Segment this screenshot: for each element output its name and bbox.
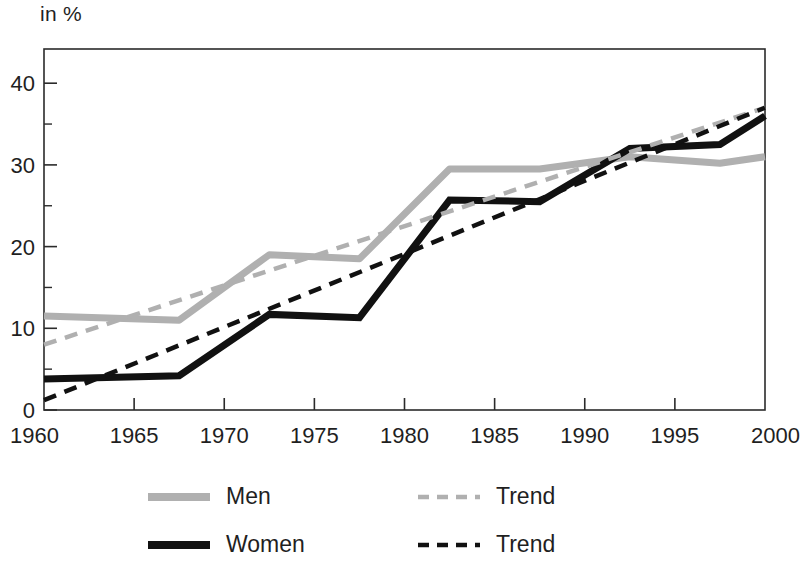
legend-label-men-0: Men bbox=[226, 483, 271, 509]
x-tick-label-2000: 2000 bbox=[751, 423, 800, 448]
y-tick-label-20: 20 bbox=[11, 235, 35, 260]
x-axis-tick-labels: 196019651970197519801985199019952000 bbox=[10, 423, 800, 448]
x-tick-label-1960: 1960 bbox=[10, 423, 59, 448]
legend-label-trend-3: Trend bbox=[496, 531, 555, 557]
chart-container: in % 010203040 1960196519701975198019851… bbox=[0, 0, 800, 569]
x-tick-label-1975: 1975 bbox=[290, 423, 339, 448]
y-tick-label-0: 0 bbox=[23, 398, 35, 423]
x-tick-label-1970: 1970 bbox=[200, 423, 249, 448]
x-tick-label-1965: 1965 bbox=[110, 423, 159, 448]
legend-label-women-2: Women bbox=[226, 531, 305, 557]
x-axis-ticks bbox=[134, 398, 675, 410]
series-line-trend-dashed bbox=[44, 108, 765, 345]
x-tick-label-1990: 1990 bbox=[560, 423, 609, 448]
series-line-men-solid bbox=[44, 157, 765, 320]
series-layer bbox=[44, 108, 765, 400]
legend-label-trend-1: Trend bbox=[496, 483, 555, 509]
x-tick-label-1995: 1995 bbox=[650, 423, 699, 448]
y-tick-label-30: 30 bbox=[11, 153, 35, 178]
chart-legend: MenTrendWomenTrend bbox=[148, 483, 555, 557]
y-tick-label-10: 10 bbox=[11, 316, 35, 341]
y-axis-ticks bbox=[44, 83, 57, 410]
y-tick-label-40: 40 bbox=[11, 71, 35, 96]
x-tick-label-1980: 1980 bbox=[380, 423, 429, 448]
line-chart: 010203040 196019651970197519801985199019… bbox=[0, 0, 800, 569]
y-axis-tick-labels: 010203040 bbox=[11, 71, 35, 423]
x-tick-label-1985: 1985 bbox=[470, 423, 519, 448]
